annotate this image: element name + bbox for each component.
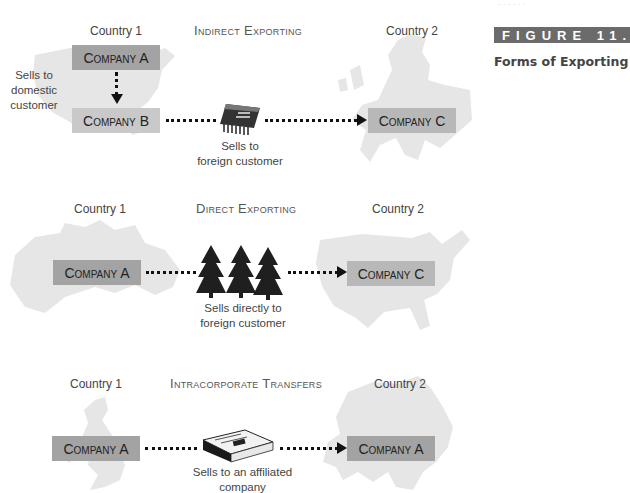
dotted-connector <box>146 271 196 274</box>
company-c-box: Company C <box>368 108 456 133</box>
dotted-connector <box>288 271 338 274</box>
vertical-dotted-line <box>115 72 118 96</box>
country-1-label: Country 1 <box>50 202 150 216</box>
country-2-label: Country 2 <box>362 24 462 38</box>
company-b-box: Company B <box>72 108 160 133</box>
arrow-right-icon <box>337 442 347 454</box>
country-2-label: Country 2 <box>348 202 448 216</box>
foreign-customer-caption: Sells to foreign customer <box>190 139 290 169</box>
dotted-connector <box>166 119 216 122</box>
pine-trees-icon <box>196 245 286 300</box>
domestic-customer-caption: Sells to domestic customer <box>4 68 64 113</box>
arrow-down-icon <box>111 94 123 104</box>
arrow-right-icon <box>357 114 367 126</box>
arrow-right-icon <box>337 266 347 278</box>
company-a-box: Company A <box>72 45 160 70</box>
europe-map <box>330 30 475 165</box>
affiliated-company-caption: Sells to an affiliated company <box>180 465 305 493</box>
dotted-connector <box>145 447 197 450</box>
section-title-intracorporate-transfers: Intracorporate Transfers <box>170 376 322 391</box>
dotted-connector <box>280 447 338 450</box>
company-a-affiliate-box: Company A <box>347 436 435 461</box>
dotted-connector <box>265 119 357 122</box>
company-a-box: Company A <box>52 436 140 461</box>
section-title-direct-exporting: Direct Exporting <box>196 201 296 216</box>
company-c-box: Company C <box>347 261 435 286</box>
newspaper-icon <box>197 428 277 464</box>
direct-foreign-customer-caption: Sells directly to foreign customer <box>188 301 298 331</box>
figure-title: Forms of Exporting <box>494 54 628 69</box>
figure-number-label: FIGURE 11.2 <box>494 27 630 43</box>
microchip-icon <box>216 100 264 140</box>
country-2-label: Country 2 <box>350 377 450 391</box>
country-1-label: Country 1 <box>46 377 146 391</box>
section-title-indirect-exporting: Indirect Exporting <box>194 23 302 38</box>
company-a-box: Company A <box>53 260 141 285</box>
country-1-label: Country 1 <box>66 24 166 38</box>
header-faint-text: · · · · · · <box>498 0 525 9</box>
